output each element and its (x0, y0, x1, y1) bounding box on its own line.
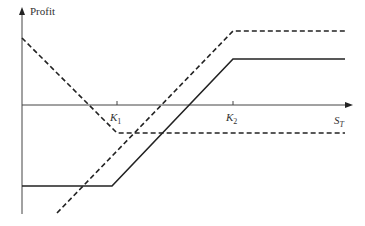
x-axis-arrow-icon (345, 102, 353, 108)
y-axis-label: Profit (30, 5, 55, 17)
payoff-chart: Profit K1 K2 ST (0, 0, 365, 226)
series-dashed-decreasing (22, 38, 345, 133)
x-axis-label: ST (334, 114, 345, 129)
k1-label: K1 (109, 111, 121, 126)
k2-label: K2 (225, 111, 237, 126)
y-axis-arrow-icon (19, 7, 25, 15)
series-solid-profit (22, 59, 345, 186)
